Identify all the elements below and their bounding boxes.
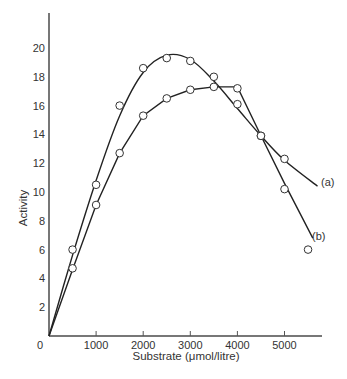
origin-label: 0 xyxy=(37,339,43,351)
axes xyxy=(49,13,322,336)
y-tick-label: 10 xyxy=(33,186,45,198)
data-point xyxy=(210,83,218,91)
x-tick-label: 1000 xyxy=(84,339,108,351)
y-axis-title: Activity xyxy=(17,190,29,227)
y-tick-label: 8 xyxy=(39,215,45,227)
y-tick-label: 2 xyxy=(39,301,45,313)
data-point xyxy=(187,86,195,94)
series-b-label: (b) xyxy=(312,230,325,242)
y-tick-label: 6 xyxy=(39,244,45,256)
data-point xyxy=(69,265,77,273)
data-point xyxy=(139,64,147,72)
x-tick-label: 5000 xyxy=(272,339,296,351)
series-a-label: (a) xyxy=(321,176,334,188)
curves xyxy=(49,54,318,336)
data-point xyxy=(210,73,218,81)
activity-substrate-chart: 10002000300040005000 2468101214161820 0 … xyxy=(0,0,347,379)
y-tick-label: 4 xyxy=(39,272,45,284)
data-point xyxy=(163,54,171,62)
data-point xyxy=(116,102,124,110)
x-axis-title: Substrate (μmol/litre) xyxy=(133,350,240,362)
series-b-points xyxy=(69,83,312,272)
curve-b xyxy=(49,87,313,336)
y-tick-label: 14 xyxy=(33,128,45,140)
data-point xyxy=(234,85,242,93)
data-point xyxy=(187,57,195,65)
y-tick-label: 16 xyxy=(33,100,45,112)
data-point xyxy=(163,95,171,103)
data-point xyxy=(234,100,242,108)
series-a-points xyxy=(69,54,289,253)
data-point xyxy=(257,132,265,140)
data-point xyxy=(304,246,312,254)
y-ticks: 2468101214161820 xyxy=(33,42,45,313)
data-point xyxy=(116,149,124,157)
curve-a xyxy=(49,54,318,336)
y-tick-label: 12 xyxy=(33,157,45,169)
x-ticks: 10002000300040005000 xyxy=(84,331,297,351)
data-point xyxy=(92,181,100,189)
y-tick-label: 20 xyxy=(33,42,45,54)
data-point xyxy=(281,155,289,163)
data-point xyxy=(69,246,77,254)
data-point xyxy=(92,201,100,209)
data-point xyxy=(281,185,289,193)
data-point xyxy=(139,112,147,120)
y-tick-label: 18 xyxy=(33,71,45,83)
